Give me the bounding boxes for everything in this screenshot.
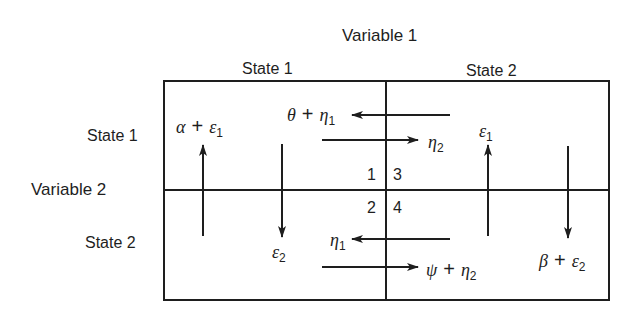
payoff-alpha-eps1: α+ε1	[176, 116, 223, 139]
row-label-state-1: State 1	[87, 128, 138, 144]
payoff-beta-eps2: β+ε2	[539, 250, 585, 273]
cell-number-1: 1	[367, 167, 376, 183]
cell-number-3: 3	[393, 167, 402, 183]
payoff-eps2-left: ε2	[272, 243, 286, 264]
variable-1-title: Variable 1	[342, 27, 417, 44]
cell-number-4: 4	[393, 200, 402, 216]
row-label-state-2: State 2	[85, 235, 136, 251]
payoff-eps1-right: ε1	[479, 122, 493, 143]
variable-2-title: Variable 2	[31, 181, 106, 198]
cell-number-2: 2	[367, 200, 376, 216]
column-label-state-1: State 1	[242, 61, 293, 77]
payoff-eta2-top: η2	[428, 133, 444, 154]
payoff-eta1-bottom: η1	[330, 231, 346, 252]
payoff-theta-eta1: θ+η1	[287, 104, 335, 127]
column-label-state-2: State 2	[466, 63, 517, 79]
payoff-psi-eta2: ψ+η2	[426, 259, 477, 282]
